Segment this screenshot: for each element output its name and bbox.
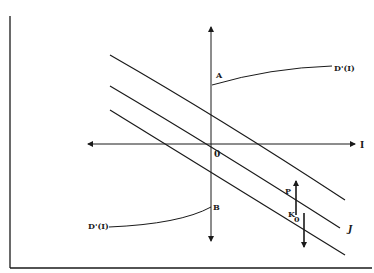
callout-upper-label: D'(I) xyxy=(334,63,355,73)
gap-p-label: P xyxy=(285,186,291,196)
diagram-canvas: I 0 J A D'(I) B D'(I) P K 0 xyxy=(0,0,374,273)
horizontal-axis-label: I xyxy=(360,140,364,150)
point-a-label: A xyxy=(215,70,223,80)
callout-lower-leader xyxy=(109,207,211,227)
point-b-label: B xyxy=(213,202,220,212)
middle-curve xyxy=(110,86,340,228)
gap-k0-subscript: 0 xyxy=(294,214,300,224)
callout-lower-label: D'(I) xyxy=(88,221,109,231)
lower-curve xyxy=(110,110,345,255)
callout-upper-leader xyxy=(212,66,332,85)
upper-curve xyxy=(110,55,345,200)
middle-curve-label: J xyxy=(346,224,353,234)
